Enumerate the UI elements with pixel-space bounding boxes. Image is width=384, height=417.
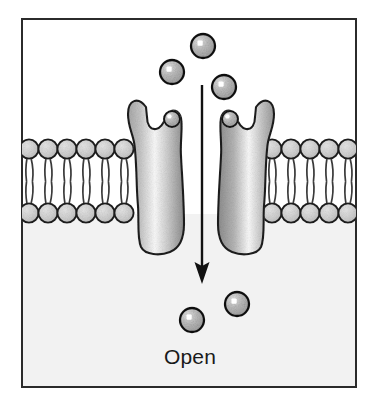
figure-canvas: Open (0, 0, 384, 417)
lipid-heads-outer-right (262, 139, 357, 158)
extracellular-space (23, 20, 355, 149)
bound-ion-left (164, 111, 180, 127)
ion-below-left (180, 308, 204, 332)
ion-channel-figure: Open (0, 0, 384, 417)
ion-below-right (225, 292, 249, 316)
state-caption: Open (164, 345, 216, 368)
ion-above-top (191, 34, 215, 58)
bound-ion-right (222, 111, 238, 127)
ion-above-left (160, 60, 184, 84)
lipid-heads-inner-right (262, 203, 357, 222)
ion-above-right (212, 75, 236, 99)
